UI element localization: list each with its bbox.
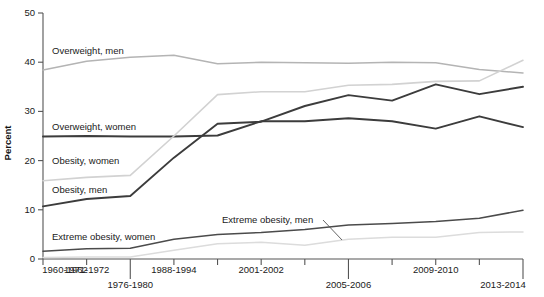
x-tick-label: 1988-1994 [151, 264, 196, 275]
series-label: Overweight, women [52, 121, 136, 132]
y-tick-label: 40 [24, 56, 35, 67]
line-chart: 01020304050 1960-19621971-19721976-19801… [0, 0, 544, 297]
y-tick-label: 50 [24, 7, 35, 18]
series-label: Overweight, men [52, 45, 124, 56]
series-label: Obesity, women [52, 155, 119, 166]
series-label: Extreme obesity, women [52, 231, 155, 242]
y-axis: 01020304050 [24, 7, 43, 264]
series-line [43, 84, 523, 206]
x-tick-label: 2013-2014 [480, 279, 525, 290]
series-label: Extreme obesity, men [222, 214, 313, 225]
series-label: Obesity, men [52, 184, 107, 195]
series-labels: Overweight, menOverweight, womenObesity,… [52, 45, 342, 242]
x-tick-label: 2005-2006 [326, 279, 371, 290]
x-axis: 1960-19621971-19721976-19801988-19942001… [42, 259, 525, 290]
y-axis-title: Percent [2, 125, 13, 161]
y-tick-label: 30 [24, 105, 35, 116]
leader-line-extreme-obesity-men [323, 220, 342, 240]
y-tick-label: 10 [24, 204, 35, 215]
x-tick-label: 1971-1972 [64, 264, 109, 275]
y-tick-label: 0 [30, 253, 35, 264]
y-tick-label: 20 [24, 155, 35, 166]
x-tick-label: 2009-2010 [413, 264, 458, 275]
series-line [43, 55, 523, 73]
x-tick-label: 1976-1980 [108, 279, 153, 290]
x-tick-label: 2001-2002 [238, 264, 283, 275]
chart-container: 01020304050 1960-19621971-19721976-19801… [0, 0, 544, 297]
